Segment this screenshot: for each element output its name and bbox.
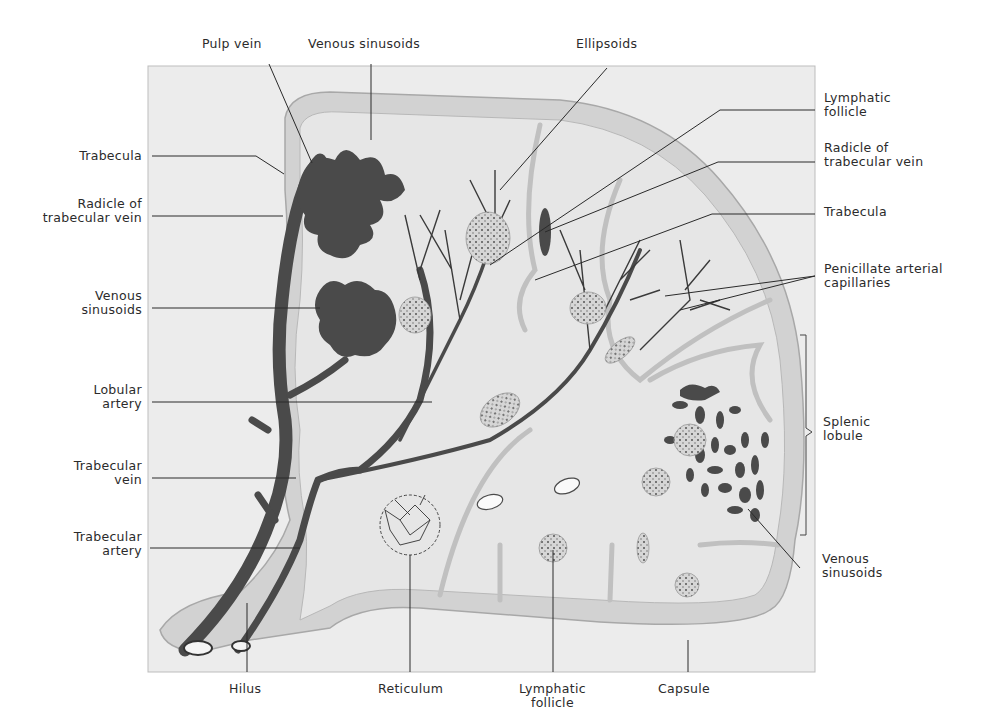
label-radicle-right: Radicle of trabecular vein [824, 141, 923, 169]
label-hilus: Hilus [229, 682, 261, 696]
label-lymphatic-follicle-bottom: Lymphatic follicle [519, 682, 586, 710]
label-venous-sinusoids-top: Venous sinusoids [308, 37, 420, 51]
label-trabecular-artery: Trabecular artery [74, 530, 142, 558]
label-trabecula-right: Trabecula [824, 205, 887, 219]
label-venous-sinusoids-right: Venous sinusoids [822, 552, 883, 580]
label-ellipsoids: Ellipsoids [576, 37, 637, 51]
label-lobular-artery: Lobular artery [93, 383, 142, 411]
label-lymphatic-follicle-right: Lymphatic follicle [824, 91, 891, 119]
label-trabecula-left: Trabecula [79, 149, 142, 163]
label-trabecular-vein: Trabecular vein [74, 459, 142, 487]
label-pulp-vein: Pulp vein [202, 37, 262, 51]
label-splenic-lobule: Splenic lobule [823, 415, 870, 443]
label-venous-sinusoids-left: Venous sinusoids [81, 289, 142, 317]
label-capsule: Capsule [658, 682, 710, 696]
label-reticulum: Reticulum [378, 682, 443, 696]
trabecular-vein-cut [184, 641, 212, 655]
label-radicle-left: Radicle of trabecular vein [43, 197, 142, 225]
spleen-diagram: Pulp vein Venous sinusoids Ellipsoids Tr… [0, 0, 990, 722]
label-penicillate-arterial-capillaries: Penicillate arterial capillaries [824, 262, 943, 290]
